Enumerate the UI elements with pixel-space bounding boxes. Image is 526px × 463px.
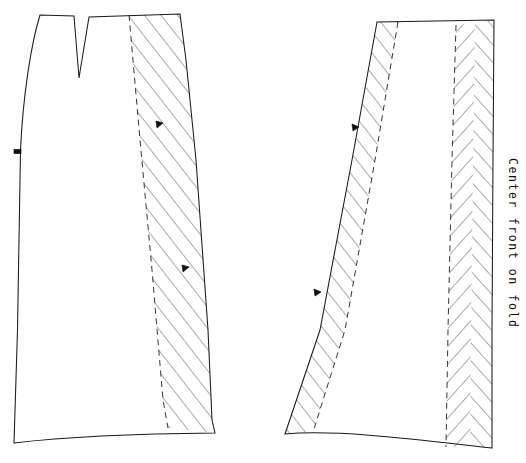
back-side-seam-allowance-hatching <box>110 0 240 463</box>
center-front-on-fold-label: Center front on fold <box>506 158 520 328</box>
piece-back-skirt-panel[interactable] <box>14 0 240 463</box>
pattern-sheet: Center front on fold <box>0 0 526 463</box>
back-left-edge-notch <box>14 150 21 154</box>
front-side-seam-allowance-hatching <box>270 0 410 463</box>
front-band-notch-lower <box>314 289 321 296</box>
piece-front-skirt-panel[interactable] <box>270 0 520 463</box>
pattern-diagram: Center front on fold <box>0 0 526 463</box>
